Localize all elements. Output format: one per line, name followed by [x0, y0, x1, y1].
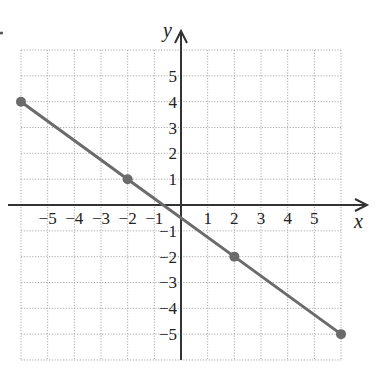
x-axis-label: x [353, 210, 363, 232]
y-tick-label: 4 [169, 93, 178, 112]
x-tick-label: 4 [283, 209, 292, 228]
y-tick-label: 3 [169, 119, 178, 138]
y-tick-label: −5 [159, 325, 177, 344]
x-tick-label: 1 [203, 209, 212, 228]
x-tick-label: −4 [65, 209, 84, 228]
y-tick-label: 5 [169, 67, 178, 86]
y-tick-label: 1 [169, 170, 178, 189]
x-tick-label: −5 [39, 209, 57, 228]
y-tick-label: 2 [169, 144, 178, 163]
x-tick-label: 3 [257, 209, 266, 228]
x-tick-label: −2 [119, 209, 137, 228]
data-point [16, 97, 26, 107]
x-tick-label: −3 [92, 209, 110, 228]
y-axis-label: y [161, 19, 172, 42]
x-tick-label: 2 [230, 209, 239, 228]
data-point [336, 329, 346, 339]
stray-dot [0, 31, 3, 34]
y-tick-label: −3 [159, 273, 177, 292]
y-tick-label: −1 [159, 222, 177, 241]
axes: x y [8, 19, 367, 360]
data-point [229, 252, 239, 262]
coordinate-plane: x y −5−4−3−2−112345−5−4−3−2−112345 [0, 0, 380, 370]
x-tick-label: 5 [310, 209, 319, 228]
y-tick-label: −4 [159, 299, 178, 318]
y-tick-label: −2 [159, 248, 177, 267]
data-point [123, 174, 133, 184]
